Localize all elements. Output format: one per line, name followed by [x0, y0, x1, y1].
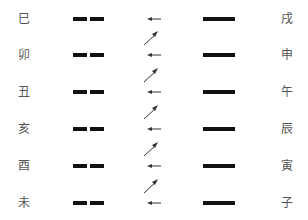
- left-arrow-icon: [146, 86, 162, 98]
- left-branch-label: 酉: [18, 156, 30, 176]
- broken-line-left-segment: [73, 127, 87, 131]
- diagonal-arrow-icon: [142, 104, 160, 120]
- left-arrow-icon: [146, 197, 162, 209]
- left-branch-label: 亥: [18, 119, 30, 139]
- diagram-row: 酉 寅: [0, 156, 308, 176]
- broken-line-right-segment: [90, 53, 104, 57]
- broken-line-left-segment: [73, 17, 87, 21]
- broken-line-right-segment: [90, 90, 104, 94]
- broken-line-left-segment: [73, 164, 87, 168]
- broken-line-right-segment: [90, 17, 104, 21]
- broken-line-right-segment: [90, 201, 104, 205]
- solid-line: [203, 53, 235, 57]
- left-branch-label: 巳: [18, 9, 30, 29]
- solid-line: [203, 164, 235, 168]
- solid-line: [203, 127, 235, 131]
- left-arrow-icon: [146, 13, 162, 25]
- right-branch-label: 戌: [281, 9, 293, 29]
- diagram-row: 未 子: [0, 193, 308, 213]
- solid-line: [203, 17, 235, 21]
- broken-line-left-segment: [73, 201, 87, 205]
- diagonal-arrow-icon: [142, 67, 160, 83]
- solid-line: [203, 90, 235, 94]
- diagonal-arrow-icon: [142, 30, 160, 46]
- right-branch-label: 子: [281, 193, 293, 213]
- diagram-row: 丑 午: [0, 82, 308, 102]
- left-arrow-icon: [146, 160, 162, 172]
- right-branch-label: 申: [281, 45, 293, 65]
- left-branch-label: 丑: [18, 82, 30, 102]
- diagram-row: 亥 辰: [0, 119, 308, 139]
- left-arrow-icon: [146, 123, 162, 135]
- solid-line: [203, 201, 235, 205]
- right-branch-label: 午: [281, 82, 293, 102]
- broken-line-left-segment: [73, 90, 87, 94]
- right-branch-label: 辰: [281, 119, 293, 139]
- broken-line-left-segment: [73, 53, 87, 57]
- left-arrow-icon: [146, 49, 162, 61]
- left-branch-label: 卯: [18, 45, 30, 65]
- right-branch-label: 寅: [281, 156, 293, 176]
- left-branch-label: 未: [18, 193, 30, 213]
- diagonal-arrow-icon: [142, 178, 160, 194]
- diagram-row: 巳 戌: [0, 9, 308, 29]
- broken-line-right-segment: [90, 127, 104, 131]
- diagram-row: 卯 申: [0, 45, 308, 65]
- diagonal-arrow-icon: [142, 141, 160, 157]
- broken-line-right-segment: [90, 164, 104, 168]
